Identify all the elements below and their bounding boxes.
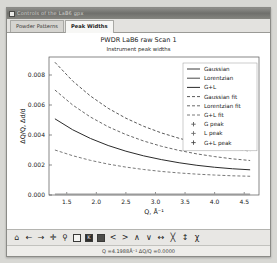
legend-label: Gaussian fit bbox=[204, 94, 238, 100]
peak-widths-chart: 1.52.02.53.03.54.04.50.0000.0020.0040.00… bbox=[7, 33, 270, 229]
matplotlib-toolbar: ⌂←→✛⚲K<>∧∨↔╳↕χ bbox=[7, 229, 270, 245]
x-tick-label: 4.5 bbox=[239, 198, 249, 205]
x-axis-label: Q, Å⁻¹ bbox=[144, 208, 164, 216]
tab-powder-patterns[interactable]: Powder Patterns bbox=[10, 20, 64, 32]
cursor-coordinates: Q =4.1988Å⁻¹ ΔQ/Q =0.0000 bbox=[102, 248, 175, 254]
legend-label: G peak bbox=[204, 121, 225, 128]
y-tick-label: 0.004 bbox=[28, 131, 45, 138]
tab-peak-widths[interactable]: Peak Widths bbox=[65, 20, 114, 33]
controls-window: Controls of the LaB6 gpx Powder Patterns… bbox=[6, 7, 271, 257]
y-axis-label: ΔQ/Q, Δd/d bbox=[19, 108, 27, 143]
legend-label: G+L fit bbox=[204, 112, 224, 118]
x-tick-label: 3.0 bbox=[151, 198, 161, 205]
legend-label: G+L bbox=[204, 84, 217, 90]
y-tick-label: 0.008 bbox=[28, 71, 45, 78]
x-tick-label: 3.5 bbox=[180, 198, 190, 205]
window-titlebar: Controls of the LaB6 gpx bbox=[7, 8, 270, 19]
forward-arrow-icon[interactable]: → bbox=[35, 231, 47, 244]
app-root: Controls of the LaB6 gpx Powder Patterns… bbox=[0, 0, 277, 263]
home-icon[interactable]: ⌂ bbox=[11, 231, 23, 244]
y-tick-label: 0.002 bbox=[28, 161, 45, 168]
tab-bar: Powder Patterns Peak Widths bbox=[7, 19, 270, 33]
expand-horizontal-icon[interactable]: ↔ bbox=[155, 231, 167, 244]
y-tick-label: 0.000 bbox=[28, 191, 45, 198]
legend-label: Gaussian bbox=[204, 66, 230, 72]
vertical-scale-icon[interactable]: ↕ bbox=[179, 231, 191, 244]
previous-peak-icon[interactable]: < bbox=[107, 231, 119, 244]
legend-label: Lorentzian bbox=[204, 75, 234, 81]
configure-subplots-icon-glyph bbox=[73, 234, 81, 242]
back-arrow-icon[interactable]: ← bbox=[23, 231, 35, 244]
window-title: Controls of the LaB6 gpx bbox=[17, 8, 268, 19]
status-bar: Q =4.1988Å⁻¹ ΔQ/Q =0.0000 bbox=[7, 245, 270, 256]
next-peak-icon[interactable]: > bbox=[119, 231, 131, 244]
save-figure-icon[interactable]: K bbox=[83, 231, 95, 244]
copy-figure-icon[interactable] bbox=[95, 231, 107, 244]
move-down-icon[interactable]: ∨ bbox=[143, 231, 155, 244]
move-up-icon[interactable]: ∧ bbox=[131, 231, 143, 244]
shrink-horizontal-icon[interactable]: ╳ bbox=[167, 231, 179, 244]
y-tick-label: 0.006 bbox=[28, 101, 45, 108]
pan-move-icon[interactable]: ✛ bbox=[47, 231, 59, 244]
x-tick-label: 2.5 bbox=[121, 198, 131, 205]
zoom-magnifier-icon[interactable]: ⚲ bbox=[59, 231, 71, 244]
legend-label: Lorentzian fit bbox=[204, 103, 242, 109]
x-tick-label: 2.0 bbox=[92, 198, 102, 205]
legend-label: G+L peak bbox=[204, 140, 232, 147]
save-figure-icon-glyph: K bbox=[85, 234, 93, 242]
plot-canvas[interactable]: PWDR LaB6 raw Scan 1 Instrument peak wid… bbox=[7, 33, 270, 229]
x-tick-label: 4.0 bbox=[210, 198, 220, 205]
chi-icon[interactable]: χ bbox=[191, 231, 203, 244]
legend-label: L peak bbox=[204, 130, 223, 137]
x-tick-label: 1.5 bbox=[62, 198, 72, 205]
app-icon bbox=[9, 11, 15, 17]
copy-figure-icon-glyph bbox=[97, 234, 105, 242]
configure-subplots-icon[interactable] bbox=[71, 231, 83, 244]
